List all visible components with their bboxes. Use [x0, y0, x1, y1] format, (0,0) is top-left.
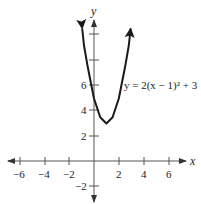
svg-text:4: 4 — [141, 168, 147, 180]
svg-text:−2: −2 — [63, 168, 75, 180]
parabola-graph: x y −6 −4 −2 2 4 6 6 4 2 −2 y = 2(x − 1)… — [0, 0, 201, 204]
svg-text:−6: −6 — [13, 168, 25, 180]
svg-text:2: 2 — [116, 168, 122, 180]
x-axis-label: x — [189, 154, 196, 168]
svg-text:−4: −4 — [38, 168, 50, 180]
svg-text:4: 4 — [81, 104, 87, 116]
equation-label: y = 2(x − 1)² + 3 — [124, 79, 198, 92]
y-axis-label: y — [90, 4, 97, 18]
svg-text:2: 2 — [81, 130, 87, 142]
svg-text:6: 6 — [166, 168, 172, 180]
svg-text:6: 6 — [81, 79, 87, 91]
y-tick-labels: 6 4 2 −2 — [75, 79, 87, 192]
parabola-curve — [82, 29, 130, 124]
x-tick-labels: −6 −4 −2 2 4 6 — [13, 168, 172, 180]
svg-text:−2: −2 — [75, 180, 87, 192]
